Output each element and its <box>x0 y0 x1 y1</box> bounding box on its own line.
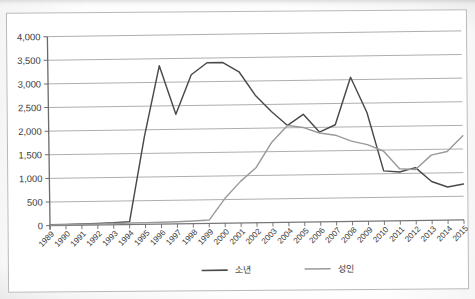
x-axis-tick-label: 1993 <box>101 228 120 248</box>
x-axis-tick-label: 2002 <box>244 226 263 246</box>
x-axis-tick-label: 1995 <box>132 228 151 248</box>
x-axis-tick-label: 1989 <box>37 229 56 249</box>
chart-stage: 05001,0001,5002,0002,5003,0003,5004,0001… <box>6 9 469 293</box>
x-axis-tick-label: 1990 <box>53 229 72 249</box>
x-axis-tick-label: 2012 <box>403 224 422 244</box>
x-axis-tick-label: 1992 <box>85 229 104 249</box>
scan-edge-artifact <box>0 0 475 7</box>
x-axis-tick-label: 2010 <box>371 225 390 245</box>
legend-label-1: 소년 <box>235 265 251 275</box>
y-axis-tick-label: 2,000 <box>18 126 42 137</box>
y-axis-tick-label: 1,000 <box>19 173 43 184</box>
x-axis-tick-label: 2008 <box>339 225 358 245</box>
x-axis-tick-label: 2009 <box>355 225 374 245</box>
x-axis-tick-label: 2000 <box>212 227 231 247</box>
y-axis-tick-label: 500 <box>27 197 43 208</box>
x-axis-tick-label: 2007 <box>324 225 343 245</box>
x-axis-tick-label: 2005 <box>292 226 311 246</box>
line-chart: 05001,0001,5002,0002,5003,0003,5004,0001… <box>6 9 469 293</box>
scanned-chart-page: 05001,0001,5002,0002,5003,0003,5004,0001… <box>0 0 475 299</box>
x-axis-tick-label: 1997 <box>164 228 183 248</box>
x-axis-tick-label: 2013 <box>419 224 438 244</box>
figure-border: 05001,0001,5002,0002,5003,0003,5004,0001… <box>6 9 469 293</box>
x-axis-tick-label: 2015 <box>451 224 469 244</box>
x-axis-tick-label: 2014 <box>435 224 454 244</box>
x-axis-tick-label: 2011 <box>388 224 407 243</box>
x-axis-tick-label: 2003 <box>260 226 279 246</box>
x-axis-tick-label: 2006 <box>308 226 327 246</box>
y-axis-tick-label: 3,500 <box>17 55 41 66</box>
y-axis-tick-label: 1,500 <box>18 149 42 160</box>
x-axis-tick-label: 1999 <box>196 227 215 247</box>
y-axis-tick-label: 2,500 <box>18 102 42 113</box>
x-axis-tick-label: 1991 <box>69 229 88 249</box>
x-axis-tick-label: 2004 <box>276 226 295 246</box>
y-axis-tick-label: 3,000 <box>18 78 42 89</box>
x-axis-tick-label: 1994 <box>117 228 136 248</box>
x-axis-tick-label: 1996 <box>148 228 167 248</box>
y-axis-tick-label: 4,000 <box>17 31 41 42</box>
legend-label-2: 성인 <box>338 264 354 274</box>
y-axis-tick-label: 0 <box>38 220 43 231</box>
x-axis-tick-label: 1998 <box>180 227 199 247</box>
x-axis-tick-label: 2001 <box>228 227 247 247</box>
